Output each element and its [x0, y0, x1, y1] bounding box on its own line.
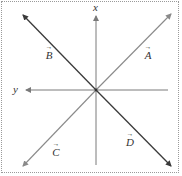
vector-diagram: [0, 0, 182, 176]
y-axis-label: y: [13, 84, 18, 95]
vector-b-label: → B: [43, 45, 55, 61]
origin-point: [95, 89, 98, 92]
x-axis-label: x: [93, 2, 98, 13]
vector-d-label: → D: [124, 132, 136, 148]
vector-a-label: → A: [142, 45, 154, 61]
vector-b-line: [23, 15, 96, 90]
vector-c-label: → C: [50, 142, 62, 158]
vector-d-line: [96, 90, 171, 166]
vector-a-line: [96, 14, 171, 90]
